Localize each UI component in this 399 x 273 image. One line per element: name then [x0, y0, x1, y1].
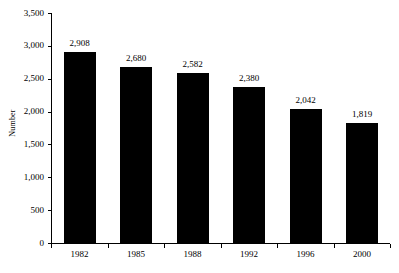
x-axis-tick-label: 2000: [332, 249, 392, 259]
bar-value-label: 2,380: [219, 74, 279, 83]
x-axis-tick-label: 1985: [106, 249, 166, 259]
x-axis-tick-label: 1988: [163, 249, 223, 259]
bars-layer: 2,90819822,68019852,58219882,38019922,04…: [0, 0, 399, 273]
x-axis-tick-label: 1996: [276, 249, 336, 259]
bar: [177, 73, 209, 243]
bar-value-label: 2,582: [163, 60, 223, 69]
bar-chart: Number 05001,0001,5002,0002,5003,0003,50…: [0, 0, 399, 273]
x-axis-tick-label: 1992: [219, 249, 279, 259]
bar-value-label: 2,680: [106, 54, 166, 63]
x-axis-tick-label: 1982: [50, 249, 110, 259]
bar-value-label: 1,819: [332, 110, 392, 119]
bar: [346, 123, 378, 243]
bar: [290, 109, 322, 243]
bar: [64, 52, 96, 243]
bar-value-label: 2,042: [276, 96, 336, 105]
bar: [120, 67, 152, 243]
bar-value-label: 2,908: [50, 39, 110, 48]
bar: [233, 87, 265, 243]
